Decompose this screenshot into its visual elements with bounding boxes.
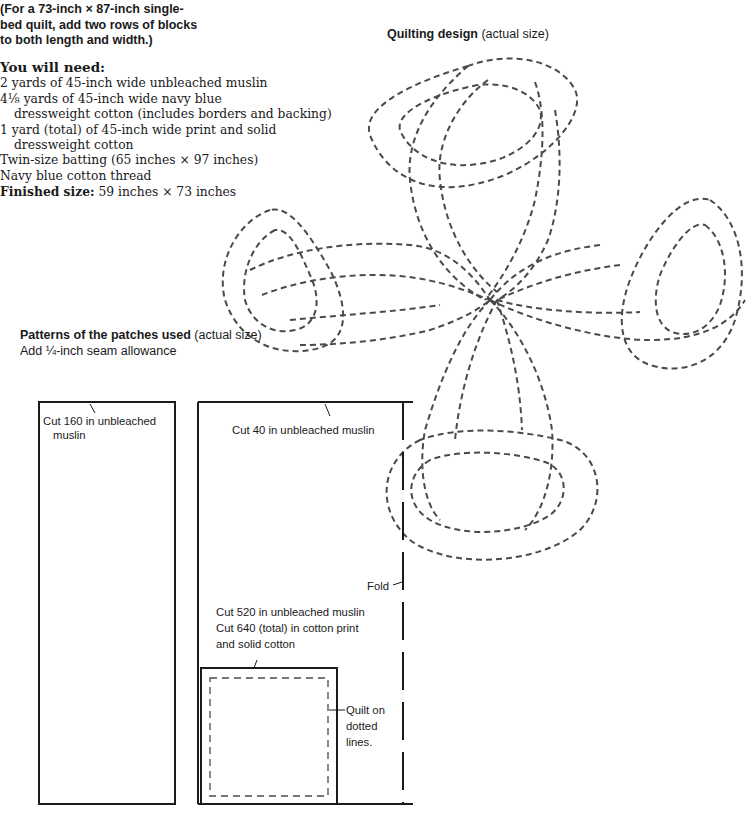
- square-patch-outline: [201, 668, 337, 804]
- intro-line: to both length and width.): [0, 33, 330, 49]
- intro-line: (For a 73-inch × 87-inch single-: [0, 2, 330, 18]
- intro-note: (For a 73-inch × 87-inch single- bed qui…: [0, 2, 330, 49]
- square-patch-label-2: dotted: [346, 719, 377, 734]
- tall-patch-label-1: Cut 160 in unbleached: [43, 414, 156, 429]
- fold-label: Fold: [367, 579, 389, 594]
- finished-size-value: 59 inches × 73 inches: [95, 185, 237, 199]
- large-patch-label-3: and solid cotton: [216, 637, 295, 652]
- patterns-title-bold: Patterns of the patches used: [20, 328, 191, 342]
- square-patch-quilt-line: [210, 678, 328, 796]
- patterns-subtitle: (actual size): [191, 328, 262, 342]
- material-item-continued: dressweight cotton (includes borders and…: [0, 107, 360, 122]
- intro-line: bed quilt, add two rows of blocks: [0, 18, 330, 34]
- material-item: 2 yards of 45-inch wide unbleached musli…: [0, 76, 360, 91]
- tall-patch-label-2: muslin: [53, 428, 86, 443]
- square-patch-label-3: lines.: [346, 735, 372, 750]
- tall-patch-pointer: [90, 404, 95, 413]
- materials-heading: You will need:: [0, 60, 360, 75]
- seam-allowance-note: Add ¼-inch seam allowance: [20, 344, 176, 358]
- material-item-continued: dressweight cotton: [0, 138, 360, 153]
- quilting-design-subtitle: (actual size): [478, 27, 549, 41]
- patterns-title: Patterns of the patches used (actual siz…: [20, 328, 262, 342]
- wide-patch-pointer: [325, 404, 330, 416]
- finished-size-label: Finished size:: [0, 184, 95, 199]
- material-item: Navy blue cotton thread: [0, 169, 360, 184]
- material-item: 1 yard (total) of 45-inch wide print and…: [0, 123, 360, 138]
- large-patch-label-1: Cut 520 in unbleached muslin: [216, 605, 365, 620]
- large-patch-label-2: Cut 640 (total) in cotton print: [216, 621, 359, 636]
- square-patch-label-1: Quilt on: [346, 703, 385, 718]
- fold-pointer: [393, 582, 402, 585]
- large-patch-pointer: [254, 660, 257, 668]
- material-item: Twin-size batting (65 inches × 97 inches…: [0, 153, 360, 168]
- tall-patch-outline: [39, 402, 175, 804]
- wide-patch-label: Cut 40 in unbleached muslin: [232, 423, 375, 438]
- materials-list: You will need: 2 yards of 45-inch wide u…: [0, 60, 360, 201]
- quilting-design-title: Quilting design (actual size): [387, 27, 549, 41]
- quilting-design-title-bold: Quilting design: [387, 27, 478, 41]
- material-item: 4⅛ yards of 45-inch wide navy blue: [0, 92, 360, 107]
- finished-size: Finished size: 59 inches × 73 inches: [0, 184, 360, 200]
